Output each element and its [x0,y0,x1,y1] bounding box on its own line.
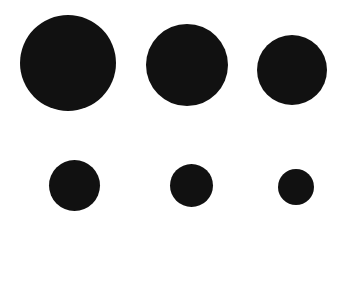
circle-row1-small [257,35,327,105]
circle-row2-small [278,169,314,205]
circle-row1-medium [146,24,228,106]
circle-row2-medium [170,164,213,207]
diagram-canvas [0,0,344,284]
circle-row2-large [49,160,100,211]
circle-row1-large [20,15,116,111]
